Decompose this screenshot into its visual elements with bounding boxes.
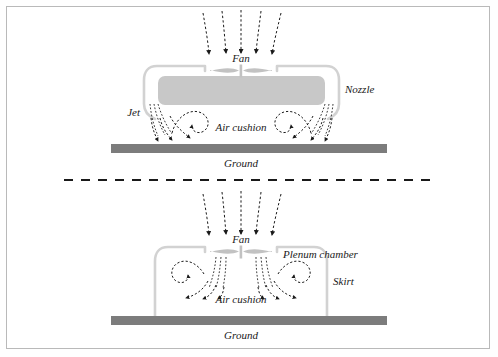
fan-blade-left-2 bbox=[210, 249, 239, 253]
label-ground-2: Ground bbox=[224, 329, 258, 341]
intake-airflow-group-2 bbox=[203, 191, 281, 235]
jet-exit-arrows-left bbox=[151, 116, 190, 141]
intake-arrow-1 bbox=[203, 13, 209, 54]
fan-assembly bbox=[210, 65, 272, 78]
intake-arrow-2 bbox=[222, 11, 226, 53]
ground-bar bbox=[111, 144, 387, 153]
fan-hub-2 bbox=[240, 246, 243, 259]
label-air-cushion-2: Air cushion bbox=[214, 293, 267, 305]
panel-plenum-chamber: Fan Plenum chamber Skirt Air cushion Gro… bbox=[111, 191, 387, 341]
label-jet: Jet bbox=[127, 106, 141, 118]
plenum-jet-streams-left bbox=[209, 257, 226, 288]
plenum-jet-streams-right bbox=[256, 257, 273, 288]
label-plenum-chamber: Plenum chamber bbox=[282, 248, 359, 260]
vortex-left-2 bbox=[172, 261, 204, 282]
label-fan: Fan bbox=[231, 52, 250, 64]
label-air-cushion: Air cushion bbox=[214, 121, 267, 133]
label-fan-2: Fan bbox=[231, 233, 250, 245]
plenum-skirt-left bbox=[155, 247, 205, 316]
jet-exit-arrows-right bbox=[293, 116, 332, 141]
intake-arrow-5 bbox=[272, 13, 281, 54]
label-ground: Ground bbox=[224, 157, 258, 169]
fan-blade-right-2 bbox=[243, 249, 272, 253]
fan-blade-left bbox=[210, 68, 239, 72]
label-skirt: Skirt bbox=[333, 275, 355, 287]
panel-peripheral-jet: Fan Nozzle Jet Air cushion Ground bbox=[111, 10, 387, 169]
vortex-left bbox=[172, 111, 208, 133]
vortex-right-2 bbox=[278, 261, 310, 282]
ground-bar-2 bbox=[111, 316, 387, 325]
fan-assembly-2 bbox=[210, 246, 272, 259]
label-nozzle: Nozzle bbox=[344, 83, 374, 95]
fan-blade-right bbox=[243, 68, 272, 72]
craft-hull-body bbox=[158, 76, 325, 105]
figure-root: Fan Nozzle Jet Air cushion Ground bbox=[0, 0, 498, 357]
vortex-right bbox=[275, 111, 311, 133]
diagram-canvas: Fan Nozzle Jet Air cushion Ground bbox=[0, 0, 498, 357]
intake-arrow-4 bbox=[256, 11, 261, 53]
intake-airflow-group bbox=[203, 10, 281, 54]
fan-hub bbox=[240, 65, 243, 78]
